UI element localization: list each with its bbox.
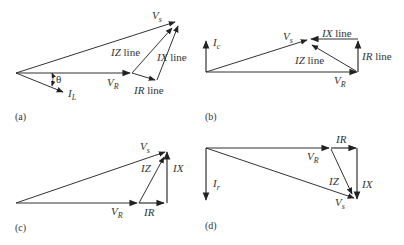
theta-arc xyxy=(52,73,53,86)
ir-label: IR xyxy=(335,133,347,145)
vr-label: VR xyxy=(307,150,319,165)
theta-label: θ xyxy=(56,73,61,85)
ir-line xyxy=(132,73,155,80)
vs-label: Vs xyxy=(335,196,345,211)
vs-label: Vs xyxy=(140,140,150,155)
iz-label: IZ xyxy=(140,162,152,174)
iz-line xyxy=(331,149,352,194)
ir-label: IR xyxy=(143,206,155,218)
vr-label: VR xyxy=(111,205,123,220)
ir-current-label: Ir xyxy=(212,177,221,192)
ix-label: IX xyxy=(172,162,185,174)
caption-c: (c) xyxy=(15,222,26,234)
panel-a: θ IL VR Vs IZ line IX line IR line (a) xyxy=(15,9,187,123)
ix-line-label: IX line xyxy=(156,51,187,63)
ir-line-label: IR line xyxy=(133,84,164,96)
vs-phasor xyxy=(206,148,354,198)
vr-label: VR xyxy=(334,74,346,89)
caption-b: (b) xyxy=(205,111,217,123)
vr-label: VR xyxy=(107,76,119,91)
panel-c: Vs IZ IX VR IR (c) xyxy=(15,140,185,234)
vs-label: Vs xyxy=(283,30,293,45)
panel-b: Ic Vs VR IX line IR line IZ line (b) xyxy=(205,27,392,123)
ix-label: IX xyxy=(361,178,374,190)
caption-a: (a) xyxy=(15,111,26,123)
caption-d: (d) xyxy=(205,220,217,232)
phasor-diagrams: θ IL VR Vs IZ line IX line IR line (a) I… xyxy=(0,0,404,245)
iz-line-label: IZ line xyxy=(110,46,140,58)
panel-d: IR VR IZ IX Ir Vs (d) xyxy=(205,133,374,232)
il-label: IL xyxy=(67,87,77,102)
iz-label: IZ xyxy=(328,175,340,187)
vs-label: Vs xyxy=(152,9,162,24)
iz-line-label: IZ line xyxy=(294,54,324,66)
ix-line-label: IX line xyxy=(321,27,352,39)
vs-phasor xyxy=(16,22,175,73)
ir-line-label: IR line xyxy=(361,50,392,62)
ic-label: Ic xyxy=(212,36,221,51)
